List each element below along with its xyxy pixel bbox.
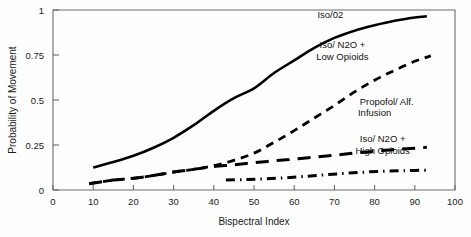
x-tick-label: 40 xyxy=(209,196,220,207)
y-axis-title: Probability of Movement xyxy=(7,46,18,153)
x-tick-label: 10 xyxy=(88,196,99,207)
curve-label: Propofol/ Alf. xyxy=(360,96,414,107)
x-tick-label: 80 xyxy=(369,196,380,207)
curve-label: Iso/02 xyxy=(317,9,343,20)
chart-background xyxy=(0,0,471,237)
y-tick-label: 1 xyxy=(39,5,44,16)
x-tick-label: 50 xyxy=(249,196,260,207)
y-tick-label: 0.5 xyxy=(31,95,44,106)
probability-of-movement-chart: 0102030405060708090100 00.250.50.751 Iso… xyxy=(0,0,471,237)
y-tick-label: 0.75 xyxy=(26,50,45,61)
x-tick-label: 100 xyxy=(447,196,463,207)
y-tick-label: 0 xyxy=(39,185,44,196)
x-axis-title: Bispectral Index xyxy=(218,216,289,227)
x-tick-label: 20 xyxy=(128,196,139,207)
x-tick-label: 90 xyxy=(410,196,421,207)
curve-label: High Opioids xyxy=(355,145,410,156)
x-tick-label: 30 xyxy=(168,196,179,207)
curve-label: Iso/ N2O + xyxy=(360,133,406,144)
curve-label: Low Opioids xyxy=(316,51,369,62)
x-tick-label: 60 xyxy=(289,196,300,207)
curve-label: Infusion xyxy=(358,107,391,118)
x-tick-label: 0 xyxy=(50,196,55,207)
x-tick-label: 70 xyxy=(329,196,340,207)
curve-label: Iso/ N2O + xyxy=(320,39,366,50)
y-tick-label: 0.25 xyxy=(26,140,45,151)
chart-figure: 0102030405060708090100 00.250.50.751 Iso… xyxy=(0,0,471,237)
